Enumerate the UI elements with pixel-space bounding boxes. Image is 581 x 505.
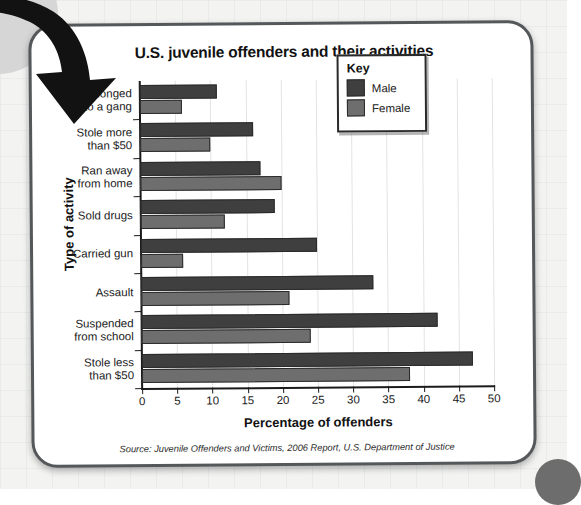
bar-female: [141, 253, 183, 267]
y-axis-tick: [134, 235, 141, 236]
y-axis-tick: [133, 158, 140, 159]
x-axis-tick-label: 0: [127, 395, 157, 407]
category-label: Ran awayfrom home: [40, 164, 132, 191]
category-label: Stole morethan $50: [40, 126, 132, 153]
x-axis-tick: [389, 386, 390, 392]
bar-female: [140, 100, 182, 114]
legend-item-female: Female: [347, 99, 425, 117]
x-axis-tick-label: 5: [162, 395, 192, 407]
chart-legend: Key Male Female: [337, 54, 428, 133]
x-axis-title: Percentage of offenders: [142, 413, 494, 431]
x-axis-tick-label: 25: [303, 394, 333, 406]
x-axis-tick-label: 15: [233, 394, 263, 406]
category-label: Sold drugs: [41, 209, 133, 223]
x-axis-tick: [459, 386, 460, 392]
category-label: Stole lessthan $50: [42, 356, 134, 383]
legend-swatch-female: [347, 99, 365, 116]
legend-label-male: Male: [372, 82, 397, 94]
bar-female: [141, 215, 226, 230]
legend-swatch-male: [347, 79, 365, 96]
y-axis-tick: [133, 119, 140, 120]
x-axis-tick: [424, 386, 425, 392]
x-axis-tick: [353, 386, 354, 392]
y-axis-tick: [134, 196, 141, 197]
legend-title: Key: [347, 61, 425, 76]
category-labels: Belongedto a gangStole morethan $50Ran a…: [31, 26, 134, 471]
bar-male: [142, 351, 473, 368]
x-axis-tick: [494, 385, 495, 391]
y-axis-title: Type of activity: [61, 144, 77, 304]
bar-male: [141, 199, 275, 214]
x-axis-tick-label: 20: [268, 394, 298, 406]
x-axis-tick: [142, 388, 143, 394]
x-axis-tick: [283, 387, 284, 393]
bar-male: [140, 123, 253, 138]
bar-female: [142, 329, 311, 344]
y-axis-tick: [135, 350, 142, 351]
bar-female: [140, 176, 281, 191]
x-axis-tick-label: 50: [479, 392, 509, 404]
x-axis-tick: [318, 387, 319, 393]
category-label: Carried gun: [41, 247, 133, 261]
background-blob-bottom-right: [535, 459, 581, 505]
bar-female: [140, 138, 210, 153]
bar-male: [140, 85, 218, 100]
chart-card: U.S. juvenile offenders and their activi…: [28, 20, 536, 468]
x-axis-tick: [213, 388, 214, 394]
bar-male: [141, 237, 317, 252]
y-axis-tick: [134, 273, 141, 274]
legend-label-female: Female: [372, 101, 410, 113]
bar-male: [140, 161, 260, 176]
y-axis-tick: [135, 311, 142, 312]
category-label: Belongedto a gang: [40, 87, 132, 114]
bar-male: [141, 275, 373, 291]
x-axis-tick: [177, 388, 178, 394]
legend-item-male: Male: [347, 79, 425, 97]
gridline: [316, 80, 319, 387]
x-axis-tick-label: 10: [198, 394, 228, 406]
y-axis-tick: [135, 388, 142, 389]
bar-female: [142, 367, 410, 383]
gridline: [457, 79, 460, 386]
x-axis-tick-label: 35: [374, 393, 404, 405]
bar-chart: U.S. juvenile offenders and their activi…: [31, 23, 539, 471]
category-label: Suspendedfrom school: [42, 318, 134, 345]
x-axis-tick-label: 45: [444, 393, 474, 405]
bar-female: [141, 291, 289, 306]
gridline: [492, 78, 495, 385]
category-label: Assault: [41, 286, 133, 300]
bar-male: [142, 313, 438, 329]
x-axis-tick-label: 40: [409, 393, 439, 405]
x-axis-tick-label: 30: [338, 393, 368, 405]
x-axis-tick: [248, 387, 249, 393]
